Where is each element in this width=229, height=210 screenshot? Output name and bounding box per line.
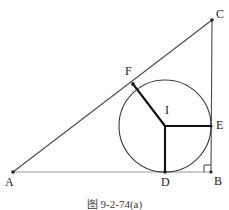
- radius-if: [133, 84, 165, 126]
- label-i: I: [165, 104, 169, 116]
- label-b: B: [214, 175, 222, 187]
- label-f: F: [125, 65, 132, 77]
- figure-caption: 图 9-2-74(a): [0, 199, 229, 210]
- geometry-figure: A B C D E F I 图 9-2-74(a): [0, 0, 229, 210]
- point-b: [209, 170, 212, 173]
- label-d: D: [161, 176, 170, 188]
- label-a: A: [5, 176, 14, 188]
- point-a: [11, 170, 15, 174]
- segment-ac: [13, 20, 212, 172]
- label-e: E: [216, 119, 223, 131]
- segment-bc: [211, 20, 212, 172]
- label-c: C: [216, 8, 224, 20]
- geometry-canvas: [0, 0, 229, 210]
- point-e: [209, 124, 212, 127]
- point-c: [210, 18, 214, 22]
- point-d: [163, 170, 167, 174]
- point-f: [131, 82, 135, 86]
